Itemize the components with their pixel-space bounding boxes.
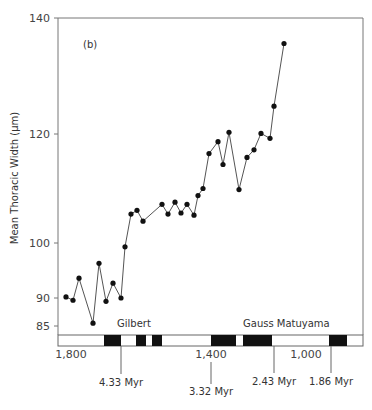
data-point-marker: [220, 162, 225, 167]
data-point-marker: [191, 213, 196, 218]
data-point-marker: [281, 41, 286, 46]
data-point-marker: [90, 321, 95, 326]
data-point-marker: [251, 147, 256, 152]
data-point-marker: [122, 244, 127, 249]
data-point-marker: [200, 186, 205, 191]
data-line: [66, 44, 284, 324]
data-point-marker: [267, 136, 272, 141]
normal-polarity-block: [211, 335, 236, 346]
data-point-marker: [271, 104, 276, 109]
y-tick-140: 140: [29, 12, 50, 25]
data-point-marker: [63, 294, 68, 299]
data-point-marker: [178, 210, 183, 215]
age-marker-1-86: 1.86 Myr: [309, 376, 354, 387]
data-point-marker: [226, 130, 231, 135]
data-point-marker: [110, 281, 115, 286]
normal-polarity-block: [136, 335, 146, 346]
y-axis-ticks: [54, 18, 58, 326]
age-marker-3-32: 3.32 Myr: [189, 386, 234, 397]
panel-label: (b): [83, 39, 97, 50]
data-point-marker: [165, 212, 170, 217]
normal-polarity-block: [104, 335, 121, 346]
x-label-1400: 1,400: [195, 348, 227, 361]
data-point-marker: [206, 151, 211, 156]
y-tick-90: 90: [36, 292, 50, 305]
data-point-marker: [236, 187, 241, 192]
data-point-marker: [244, 155, 249, 160]
data-point-marker: [134, 208, 139, 213]
x-label-1000: 1,000: [290, 348, 322, 361]
data-point-marker: [184, 202, 189, 207]
normal-polarity-block: [243, 335, 272, 346]
x-label-1800: 1,800: [55, 348, 87, 361]
data-point-marker: [195, 193, 200, 198]
data-point-marker: [96, 261, 101, 266]
y-tick-85: 85: [36, 320, 50, 333]
data-point-marker: [118, 295, 123, 300]
age-marker-4-33: 4.33 Myr: [99, 377, 144, 388]
data-point-marker: [172, 200, 177, 205]
age-marker-2-43: 2.43 Myr: [252, 376, 297, 387]
normal-polarity-block: [152, 335, 162, 346]
y-tick-100: 100: [29, 237, 50, 250]
chron-label-gilbert: Gilbert: [117, 318, 151, 329]
data-point-marker: [70, 298, 75, 303]
y-tick-120: 120: [29, 128, 50, 141]
data-point-marker: [103, 299, 108, 304]
data-point-marker: [215, 139, 220, 144]
normal-polarity-block: [329, 335, 347, 346]
data-point-marker: [76, 276, 81, 281]
polarity-timescale-bar: [58, 335, 363, 346]
y-axis-title: Mean Thoracic Width (μm): [9, 112, 20, 244]
data-point-marker: [159, 202, 164, 207]
data-point-marker: [140, 219, 145, 224]
data-point-marker: [128, 212, 133, 217]
chron-label-gauss-matuyama: Gauss Matuyama: [243, 318, 330, 329]
data-series: [63, 41, 286, 326]
chart-svg: 140 120 100 90 85 Mean Thoracic Width (μ…: [0, 0, 372, 410]
data-point-marker: [258, 131, 263, 136]
